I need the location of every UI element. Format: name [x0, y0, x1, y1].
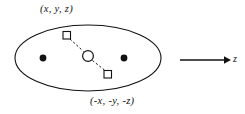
dashed-connector-upper	[70, 39, 84, 52]
coordinate-label-positive: (x, y, z)	[40, 4, 73, 15]
right-filled-dot	[121, 55, 128, 62]
upper-left-open-square	[63, 32, 71, 40]
dashed-connector-lower	[93, 61, 106, 71]
lower-right-open-square	[104, 71, 112, 79]
z-axis-arrow-head-icon	[224, 56, 231, 64]
left-filled-dot	[40, 55, 47, 62]
coordinate-label-negative: (-x, -y, -z)	[90, 96, 134, 107]
z-axis-label: z	[233, 54, 237, 64]
figure-container: (x, y, z) (-x, -y, -z) z	[0, 0, 245, 114]
center-open-circle	[83, 51, 94, 62]
